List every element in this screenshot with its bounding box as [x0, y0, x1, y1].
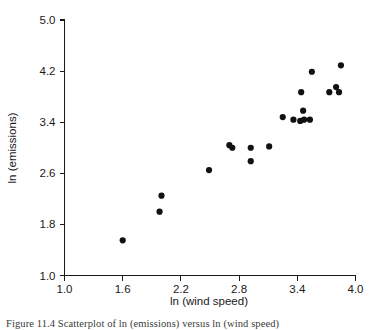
y-tick-label: 1.0 — [40, 270, 56, 282]
data-point — [158, 193, 164, 199]
x-tick-label: 2.2 — [173, 283, 189, 295]
y-axis-ticks: 1.01.82.63.44.25.0 — [40, 14, 65, 282]
x-axis-ticks: 1.01.62.22.83.44.0 — [57, 276, 364, 295]
y-tick-label: 3.4 — [40, 116, 57, 128]
data-point — [301, 117, 307, 123]
data-point — [300, 108, 306, 114]
data-point — [298, 89, 304, 95]
data-point — [248, 158, 254, 164]
data-point — [307, 117, 313, 123]
x-tick-label: 1.0 — [57, 283, 73, 295]
y-tick-label: 5.0 — [40, 14, 56, 26]
data-point — [206, 167, 212, 173]
y-axis-title: ln (emissions) — [6, 112, 18, 183]
y-tick-label: 2.6 — [40, 167, 56, 179]
figure-container: 1.01.82.63.44.25.0 1.01.62.22.83.44.0 ln… — [0, 0, 378, 330]
data-point — [290, 117, 296, 123]
data-point — [338, 62, 344, 68]
data-point — [309, 69, 315, 75]
x-tick-label: 1.6 — [115, 283, 131, 295]
figure-caption: Figure 11.4 Scatterplot of ln (emissions… — [0, 318, 378, 330]
data-point — [248, 145, 254, 151]
axes — [64, 20, 356, 276]
y-tick-label: 4.2 — [40, 65, 56, 77]
data-points — [120, 62, 344, 243]
data-point — [229, 145, 235, 151]
data-point — [336, 89, 342, 95]
y-tick-label: 1.8 — [40, 218, 56, 230]
data-point — [120, 237, 126, 243]
x-tick-label: 2.8 — [231, 283, 247, 295]
x-tick-label: 4.0 — [348, 283, 364, 295]
scatter-plot: 1.01.82.63.44.25.0 1.01.62.22.83.44.0 ln… — [0, 0, 378, 318]
x-tick-label: 3.4 — [289, 283, 306, 295]
data-point — [280, 114, 286, 120]
data-point — [326, 89, 332, 95]
data-point — [156, 209, 162, 215]
x-axis-title: ln (wind speed) — [170, 295, 248, 307]
data-point — [266, 143, 272, 149]
